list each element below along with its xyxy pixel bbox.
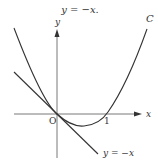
graph-figure: y = −x. x y O 1 C y = −x [0, 0, 158, 162]
y-axis-arrow-icon [55, 29, 60, 37]
tick-label-1: 1 [104, 116, 110, 126]
y-axis-label: y [54, 17, 61, 27]
x-axis-label: x [146, 109, 151, 119]
caption: y = −x. [60, 4, 99, 15]
x-axis-arrow-icon [134, 112, 142, 117]
curve-c [14, 28, 147, 126]
curve-label: C [146, 13, 154, 24]
tangent-line [14, 72, 98, 154]
line-label: y = −x [102, 148, 134, 158]
origin-label: O [49, 116, 56, 126]
